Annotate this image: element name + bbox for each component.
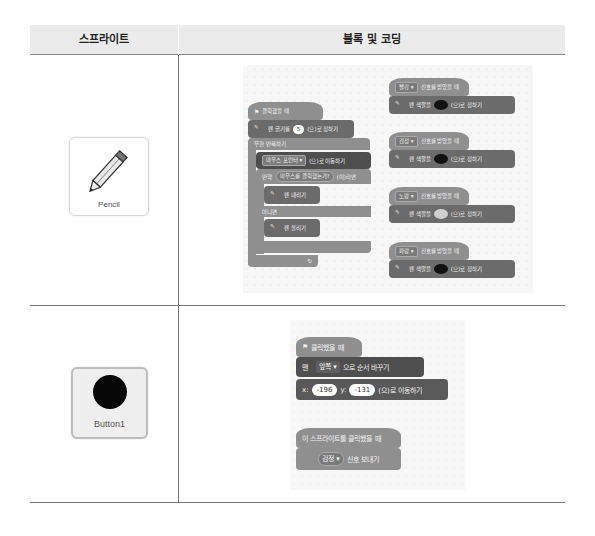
black-circle-icon: [93, 375, 127, 409]
pen-icon: ✎: [270, 223, 280, 233]
sprite-name-pencil: Pencil: [70, 200, 148, 209]
goto-mouse-block[interactable]: 마우스 포인터 ▾ (으)로 이동하기: [256, 152, 371, 169]
signal-dropdown-black[interactable]: 검정 ▾: [395, 136, 418, 147]
broadcast-dropdown[interactable]: 검정 ▾: [318, 452, 344, 466]
column-divider: [178, 55, 179, 503]
green-flag-icon: ⚑: [302, 343, 308, 351]
when-flag-clicked-block[interactable]: ⚑ 클릭했을 때: [296, 337, 362, 357]
forever-block-arm: [248, 150, 256, 265]
forever-block[interactable]: 무한 반복하기: [248, 138, 370, 150]
forever-block-bottom: ↻: [248, 255, 318, 267]
signal-dropdown-blue[interactable]: 파랑 ▾: [395, 246, 418, 257]
set-pen-size-block[interactable]: ✎ 펜 굵기를 5 (으)로 정하기: [248, 120, 354, 138]
set-pen-color-red-block[interactable]: ✎ 펜 색깔을 (으)로 정하기: [389, 96, 515, 114]
if-else-block[interactable]: 만약 마우스를 클릭했는가? (이)라면: [256, 169, 371, 184]
green-flag-icon: ⚑: [254, 108, 259, 115]
go-to-layer-block[interactable]: 맨 앞쪽 ▾ 으로 순서 바꾸기: [296, 357, 424, 377]
when-receive-red-block[interactable]: 빨강 ▾ 신호를 받았을 때: [389, 78, 469, 96]
set-pen-color-yellow-block[interactable]: ✎ 펜 색깔을 (으)로 정하기: [389, 205, 515, 223]
sprite-name-button1: Button1: [73, 419, 146, 429]
signal-dropdown-yellow[interactable]: 노랑 ▾: [395, 191, 418, 202]
table-header: 스프라이트 블록 및 코딩: [30, 25, 565, 55]
color-swatch[interactable]: [434, 264, 448, 274]
table-bottom-border: [30, 502, 565, 503]
mouse-down-condition[interactable]: 마우스를 클릭했는가?: [276, 171, 334, 182]
x-input[interactable]: -196: [312, 384, 338, 396]
goto-target-dropdown[interactable]: 마우스 포인터 ▾: [262, 155, 306, 166]
when-receive-blue-block[interactable]: 파랑 ▾ 신호를 받았을 때: [389, 242, 469, 260]
pen-icon: ✎: [254, 124, 264, 134]
signal-dropdown-red[interactable]: 빨강 ▾: [395, 82, 418, 93]
pen-icon: ✎: [395, 209, 405, 219]
if-else-bottom: [256, 241, 371, 253]
set-pen-color-blue-block[interactable]: ✎ 펜 색깔을 (으)로 정하기: [389, 260, 515, 278]
go-to-xy-block[interactable]: x: -196 y: -131 (으)로 이동하기: [296, 379, 448, 400]
pen-icon: ✎: [270, 190, 280, 200]
pen-size-input[interactable]: 5: [293, 125, 305, 134]
row-divider: [30, 305, 565, 306]
color-swatch[interactable]: [434, 154, 448, 164]
when-receive-black-block[interactable]: 검정 ▾ 신호를 받았을 때: [389, 132, 469, 150]
pen-up-block[interactable]: ✎ 펜 올리기: [264, 219, 320, 237]
pen-down-block[interactable]: ✎ 펜 내리기: [264, 186, 320, 204]
pen-icon: ✎: [395, 264, 405, 274]
color-swatch[interactable]: [434, 100, 448, 110]
pen-icon: ✎: [395, 100, 405, 110]
sprite-card-button1[interactable]: Button1: [71, 367, 148, 439]
y-input[interactable]: -131: [349, 384, 375, 396]
set-pen-color-black-block[interactable]: ✎ 펜 색깔을 (으)로 정하기: [389, 150, 515, 168]
broadcast-block[interactable]: 검정 ▾ 신호 보내기: [296, 448, 401, 470]
when-sprite-clicked-block[interactable]: 이 스프라이트를 클릭했을 때: [296, 428, 401, 448]
when-flag-clicked-block[interactable]: ⚑ 클릭했을 때: [248, 102, 323, 120]
sprite-card-pencil[interactable]: Pencil: [69, 137, 149, 216]
else-label-bar: 아니면: [256, 206, 371, 217]
loop-arrow-icon: ↻: [307, 258, 312, 264]
pencil-icon: [84, 144, 136, 194]
header-sprite: 스프라이트: [30, 25, 178, 55]
layer-dropdown[interactable]: 앞쪽 ▾: [316, 361, 340, 373]
pen-icon: ✎: [395, 154, 405, 164]
color-swatch[interactable]: [434, 209, 448, 219]
header-blocks: 블록 및 코딩: [178, 25, 565, 55]
when-receive-yellow-block[interactable]: 노랑 ▾ 신호를 받았을 때: [389, 187, 469, 205]
